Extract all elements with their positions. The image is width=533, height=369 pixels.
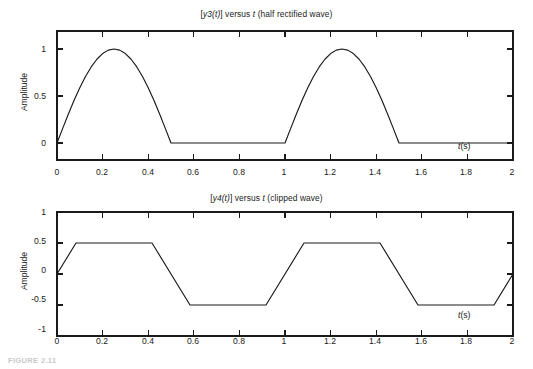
series-line-y4: [57, 243, 513, 305]
series-line-y3: [57, 49, 513, 143]
plot-area-bottom: [0, 186, 533, 352]
plot-area-top: [0, 0, 533, 186]
figure-caption: FIGURE 2.11: [8, 356, 56, 365]
chart-panel-clipped: [y4(t)] versus t (clipped wave) Amplitud…: [0, 186, 533, 352]
chart-panel-half-rectified: [y3(t)] versus t (half rectified wave) A…: [0, 0, 533, 186]
figure-container: [y3(t)] versus t (half rectified wave) A…: [0, 0, 533, 369]
